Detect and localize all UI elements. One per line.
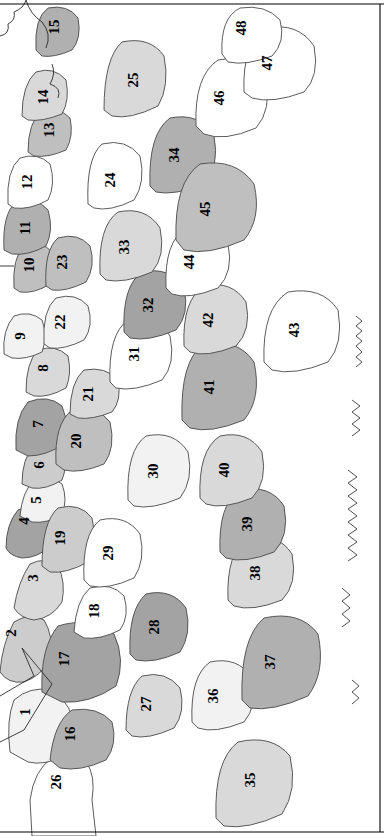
region-28[interactable] bbox=[130, 593, 188, 661]
region-24[interactable] bbox=[88, 143, 142, 210]
map-canvas bbox=[0, 0, 384, 836]
region-22[interactable] bbox=[44, 296, 91, 348]
region-41[interactable] bbox=[182, 343, 257, 430]
map-figure: 1234567891011121314151617181920212223242… bbox=[0, 0, 384, 836]
region-30[interactable] bbox=[128, 435, 190, 507]
region-37[interactable] bbox=[242, 616, 321, 709]
region-11[interactable] bbox=[4, 200, 51, 254]
region-45[interactable] bbox=[176, 163, 257, 252]
region-12[interactable] bbox=[8, 156, 53, 208]
region-48[interactable] bbox=[222, 7, 282, 63]
region-15[interactable] bbox=[36, 7, 79, 56]
region-29[interactable] bbox=[84, 519, 142, 587]
region-33[interactable] bbox=[100, 211, 162, 281]
region-23[interactable] bbox=[46, 236, 93, 290]
